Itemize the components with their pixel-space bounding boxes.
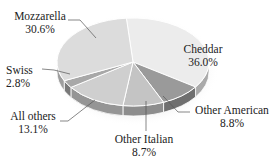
label-swiss: Swiss 2.8% bbox=[6, 64, 40, 90]
label-other-american-pct: 8.8% bbox=[190, 117, 274, 130]
label-mozzarella-pct: 30.6% bbox=[8, 23, 72, 36]
label-cheddar-pct: 36.0% bbox=[177, 56, 229, 69]
label-cheddar: Cheddar 36.0% bbox=[177, 43, 229, 69]
label-all-others-name: All others bbox=[5, 110, 61, 123]
label-cheddar-name: Cheddar bbox=[177, 43, 229, 56]
label-all-others-pct: 13.1% bbox=[5, 123, 61, 136]
label-other-american-name: Other American bbox=[190, 104, 274, 117]
label-other-italian: Other Italian 8.7% bbox=[104, 133, 184, 159]
label-other-american: Other American 8.8% bbox=[190, 104, 274, 130]
label-other-italian-pct: 8.7% bbox=[104, 146, 184, 159]
label-swiss-pct: 2.8% bbox=[6, 77, 40, 90]
label-all-others: All others 13.1% bbox=[5, 110, 61, 136]
label-mozzarella: Mozzarella 30.6% bbox=[8, 10, 72, 36]
label-swiss-name: Swiss bbox=[6, 64, 40, 77]
label-mozzarella-name: Mozzarella bbox=[8, 10, 72, 23]
label-other-italian-name: Other Italian bbox=[104, 133, 184, 146]
